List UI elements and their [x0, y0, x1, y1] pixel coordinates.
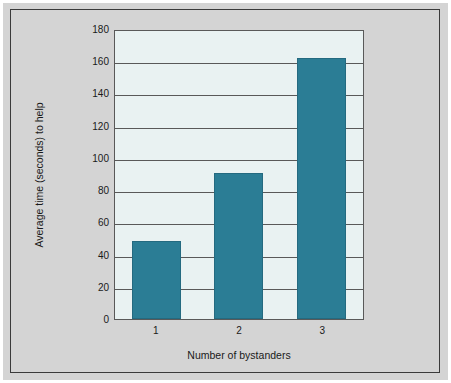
bar-slot: [280, 31, 363, 319]
x-tick-label: 3: [281, 325, 364, 341]
x-axis-ticks: 1 2 3: [114, 325, 364, 341]
chart-screenshot: Average time (seconds) to help 180 160 1…: [0, 0, 451, 383]
bar-category-2: [214, 173, 263, 319]
y-tick-label: 180: [69, 25, 109, 35]
y-axis-title-area: Average time (seconds) to help: [30, 30, 48, 320]
bar-chart: Average time (seconds) to help 180 160 1…: [10, 9, 440, 373]
x-axis-title: Number of bystanders: [114, 349, 364, 361]
y-axis-title: Average time (seconds) to help: [33, 102, 45, 247]
bar-slot: [198, 31, 281, 319]
y-tick-label: 0: [69, 315, 109, 325]
y-tick-label: 120: [69, 122, 109, 132]
bar-series: [115, 31, 363, 319]
y-tick-label: 100: [69, 154, 109, 164]
y-axis-ticks: 180 160 140 120 100 80 60 40 20 0: [65, 30, 109, 320]
y-tick-label: 20: [69, 283, 109, 293]
bar-category-3: [297, 58, 346, 319]
x-tick-label: 2: [197, 325, 280, 341]
y-tick-label: 80: [69, 186, 109, 196]
y-tick-label: 40: [69, 251, 109, 261]
y-tick-label: 160: [69, 57, 109, 67]
x-tick-label: 1: [114, 325, 197, 341]
bar-slot: [115, 31, 198, 319]
bar-category-1: [132, 241, 181, 319]
y-tick-label: 60: [69, 218, 109, 228]
y-tick-label: 140: [69, 89, 109, 99]
plot-area: [114, 30, 364, 320]
